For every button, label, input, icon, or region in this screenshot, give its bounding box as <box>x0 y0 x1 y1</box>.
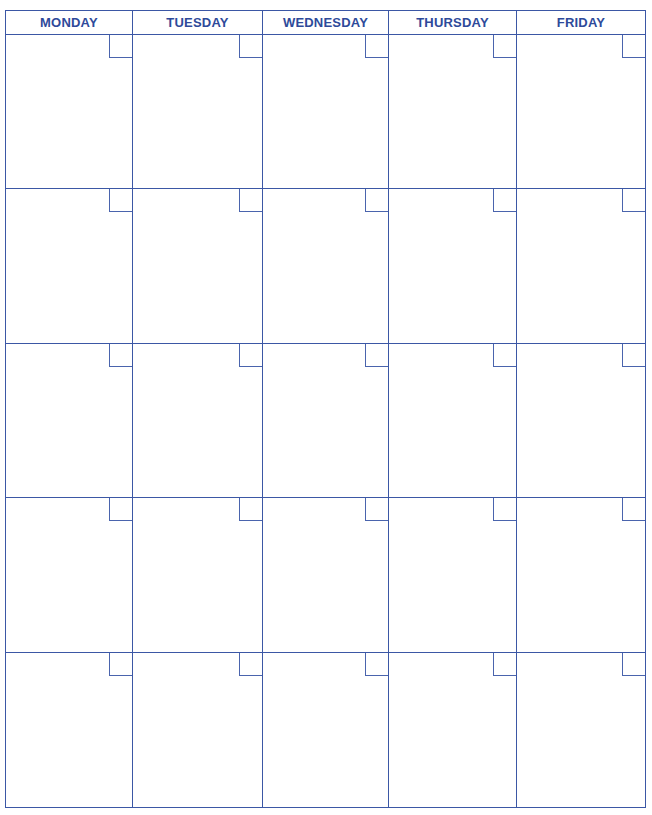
date-number-box[interactable] <box>109 344 132 367</box>
day-cell[interactable] <box>263 653 389 807</box>
day-cell[interactable] <box>517 189 645 343</box>
day-cell[interactable] <box>517 344 645 498</box>
date-number-box[interactable] <box>622 35 645 58</box>
date-number-box[interactable] <box>365 653 388 676</box>
date-number-box[interactable] <box>239 498 262 521</box>
day-header-tuesday: TUESDAY <box>133 11 263 35</box>
date-number-box[interactable] <box>365 189 388 212</box>
day-cell[interactable] <box>389 35 517 189</box>
date-number-box[interactable] <box>493 35 516 58</box>
date-number-box[interactable] <box>109 653 132 676</box>
day-cell[interactable] <box>263 35 389 189</box>
day-cell[interactable] <box>263 189 389 343</box>
date-number-box[interactable] <box>493 653 516 676</box>
day-cell[interactable] <box>389 653 517 807</box>
date-number-box[interactable] <box>622 498 645 521</box>
day-cell[interactable] <box>6 653 133 807</box>
day-cell[interactable] <box>6 35 133 189</box>
day-cell[interactable] <box>133 653 263 807</box>
date-number-box[interactable] <box>109 498 132 521</box>
day-cell[interactable] <box>133 35 263 189</box>
day-cell[interactable] <box>6 344 133 498</box>
day-header-thursday: THURSDAY <box>389 11 517 35</box>
weekday-calendar-grid: MONDAY TUESDAY WEDNESDAY THURSDAY FRIDAY <box>5 10 646 808</box>
date-number-box[interactable] <box>365 35 388 58</box>
date-number-box[interactable] <box>622 189 645 212</box>
day-cell[interactable] <box>6 189 133 343</box>
day-header-monday: MONDAY <box>6 11 133 35</box>
date-number-box[interactable] <box>239 35 262 58</box>
day-cell[interactable] <box>517 35 645 189</box>
date-number-box[interactable] <box>109 35 132 58</box>
date-number-box[interactable] <box>109 189 132 212</box>
day-cell[interactable] <box>517 653 645 807</box>
day-cell[interactable] <box>263 344 389 498</box>
date-number-box[interactable] <box>239 189 262 212</box>
date-number-box[interactable] <box>239 653 262 676</box>
date-number-box[interactable] <box>493 498 516 521</box>
date-number-box[interactable] <box>365 344 388 367</box>
date-number-box[interactable] <box>493 344 516 367</box>
date-number-box[interactable] <box>622 653 645 676</box>
day-header-friday: FRIDAY <box>517 11 645 35</box>
day-cell[interactable] <box>263 498 389 652</box>
day-header-wednesday: WEDNESDAY <box>263 11 389 35</box>
day-cell[interactable] <box>517 498 645 652</box>
day-cell[interactable] <box>133 189 263 343</box>
day-cell[interactable] <box>133 344 263 498</box>
date-number-box[interactable] <box>239 344 262 367</box>
day-cell[interactable] <box>389 189 517 343</box>
date-number-box[interactable] <box>365 498 388 521</box>
date-number-box[interactable] <box>622 344 645 367</box>
date-number-box[interactable] <box>493 189 516 212</box>
day-cell[interactable] <box>389 344 517 498</box>
day-cell[interactable] <box>389 498 517 652</box>
day-cell[interactable] <box>6 498 133 652</box>
day-cell[interactable] <box>133 498 263 652</box>
